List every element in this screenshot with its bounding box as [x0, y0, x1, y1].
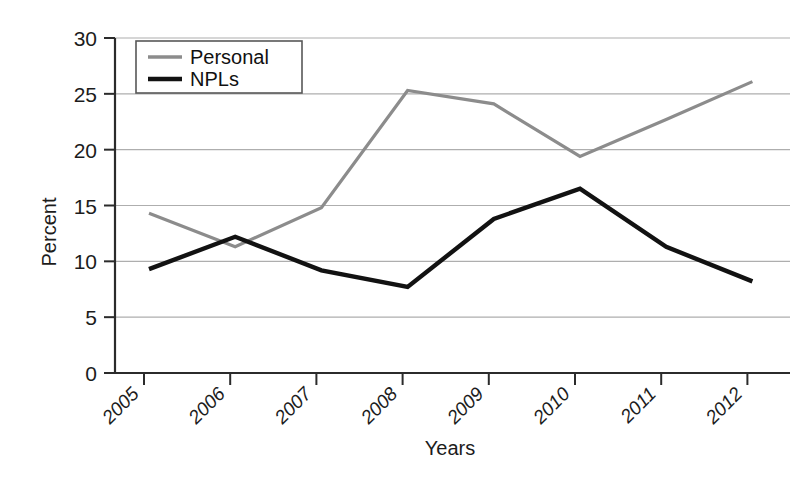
y-axis-title: Percent: [38, 197, 60, 266]
x-tick-label-group: 20052006200720082009201020112012: [97, 382, 746, 428]
x-tick-label-2006: 2006: [184, 383, 230, 429]
y-tick-label-10: 10: [74, 250, 97, 273]
chart-page: 051015202530 200520062007200820092010201…: [0, 0, 805, 481]
y-tick-label-15: 15: [74, 195, 97, 218]
series-group: [149, 82, 752, 287]
series-line-personal: [149, 82, 752, 247]
y-tick-label-20: 20: [74, 139, 97, 162]
x-tick-label-2012: 2012: [701, 383, 747, 429]
series-line-npls: [149, 189, 752, 287]
x-tick-label-2011: 2011: [616, 383, 660, 427]
x-tick-label-2010: 2010: [528, 383, 574, 429]
y-tick-label-25: 25: [74, 83, 97, 106]
y-tick-label-0: 0: [85, 362, 97, 385]
line-chart: 051015202530 200520062007200820092010201…: [0, 0, 805, 481]
legend-item-personal: Personal: [190, 46, 269, 68]
x-tick-label-2007: 2007: [270, 382, 316, 428]
chart-legend[interactable]: Personal NPLs: [136, 41, 302, 93]
y-tick-label-30: 30: [74, 27, 97, 50]
x-tick-label-2008: 2008: [356, 383, 402, 429]
legend-item-npls: NPLs: [190, 68, 239, 90]
x-tick-label-2005: 2005: [97, 383, 143, 429]
x-tick-label-2009: 2009: [442, 383, 488, 429]
y-tick-group: 051015202530: [74, 27, 115, 385]
y-tick-label-5: 5: [85, 306, 97, 329]
x-tick-group: [144, 373, 747, 385]
x-axis-title: Years: [425, 437, 475, 459]
